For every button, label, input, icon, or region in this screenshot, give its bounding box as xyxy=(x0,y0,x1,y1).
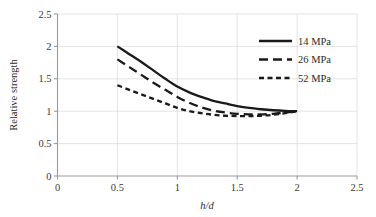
x-tick-label: 0 xyxy=(55,182,60,193)
x-tick-label: 1.5 xyxy=(231,182,244,193)
y-tick-label: 0.5 xyxy=(38,138,51,149)
x-tick-label: 2.5 xyxy=(350,182,363,193)
x-axis-title: h/d xyxy=(200,200,214,211)
x-tick-label: 1 xyxy=(175,182,180,193)
y-tick-label: 2.5 xyxy=(38,9,51,20)
x-axis-tick-labels: 00.511.522.5 xyxy=(55,182,364,193)
legend-label-52-mpa: 52 MPa xyxy=(298,73,331,84)
legend-label-26-mpa: 26 MPa xyxy=(298,54,331,65)
chart-figure: 00.511.522.5 00.511.522.5 Relative stren… xyxy=(0,0,376,217)
series-line-26-mpa xyxy=(117,59,297,114)
x-tick-label: 2 xyxy=(294,182,299,193)
y-tick-label: 1 xyxy=(46,106,51,117)
legend: 14 MPa26 MPa52 MPa xyxy=(259,36,331,84)
y-tick-label: 2 xyxy=(46,41,51,52)
y-tick-label: 0 xyxy=(46,171,51,182)
y-tick-label: 1.5 xyxy=(38,73,51,84)
y-axis-title: Relative strength xyxy=(8,59,19,131)
chart-svg: 00.511.522.5 00.511.522.5 Relative stren… xyxy=(0,0,376,217)
series-lines xyxy=(117,46,297,116)
legend-label-14-mpa: 14 MPa xyxy=(298,36,331,47)
y-axis-tick-labels: 00.511.522.5 xyxy=(38,9,51,182)
x-tick-label: 0.5 xyxy=(111,182,124,193)
